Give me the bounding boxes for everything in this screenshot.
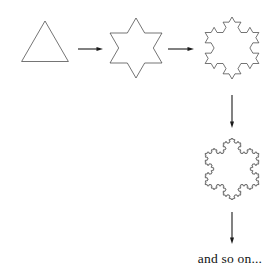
arrow-head [230,122,234,129]
caption-and-so-on: and so on... [198,251,262,266]
arrows-group [78,47,234,244]
arrow-head [230,238,234,245]
shape-koch-snowflake-iteration-4 [205,138,259,200]
shape-six-pointed-star [110,18,162,78]
arrow-head [188,47,195,51]
koch-stages-group [22,17,259,200]
arrow-star-to-snowflake [168,47,194,51]
shape-equilateral-triangle [22,21,69,62]
koch-snowflake-figure: and so on... [0,0,277,273]
arrow-snowflake-down [230,95,234,128]
shape-koch-snowflake-iteration-2 [205,17,259,79]
arrow-triangle-to-star [78,47,103,51]
arrow-head [97,47,104,51]
arrow-to-caption [230,212,234,244]
figure-canvas: and so on... [0,0,277,273]
